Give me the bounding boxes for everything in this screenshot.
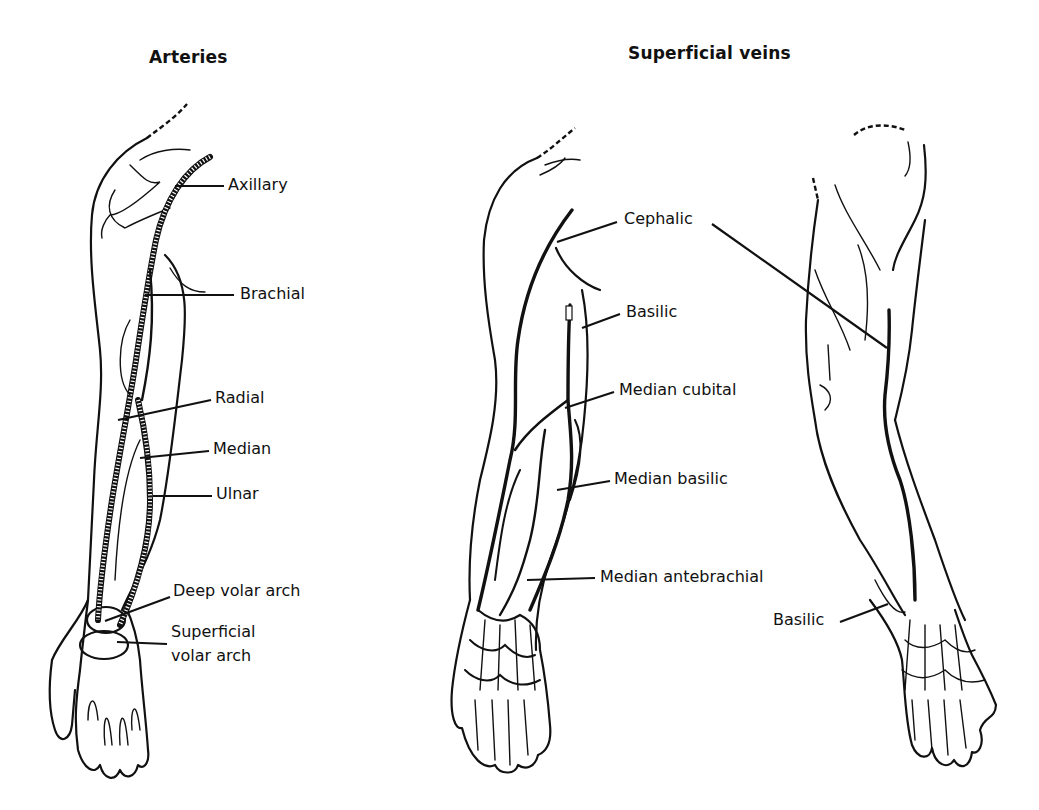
label-deep-volar-arch: Deep volar arch [173,582,300,600]
leader-line-cephalic-back [712,224,887,348]
label-median-cubital: Median cubital [619,381,736,399]
leader-line [527,578,595,580]
label-ulnar: Ulnar [216,485,259,503]
leader-line [582,314,620,328]
label-basilic-back: Basilic [773,611,824,629]
label-median: Median [213,440,271,458]
leader-line [840,604,888,622]
label-radial: Radial [215,389,264,407]
label-axillary: Axillary [228,176,288,194]
leader-line [557,222,617,242]
arteries-arm-outline [50,104,205,778]
label-superficial-volar-arch-line2: volar arch [171,647,251,665]
anatomy-drawing [0,0,1039,810]
label-median-antebrachial: Median antebrachial [600,568,764,586]
label-brachial: Brachial [240,285,305,303]
veins-back-arm-outline [806,125,996,766]
leader-line [117,642,167,644]
leader-line [557,481,610,490]
label-median-basilic: Median basilic [614,470,728,488]
leader-line [565,392,614,408]
label-superficial-volar-arch-line1: Superficial [171,623,255,641]
arteries-vessels [98,157,210,625]
veins-front-vessels [465,210,580,765]
label-cephalic: Cephalic [624,210,693,228]
leader-line [118,400,211,420]
label-basilic-front: Basilic [626,303,677,321]
